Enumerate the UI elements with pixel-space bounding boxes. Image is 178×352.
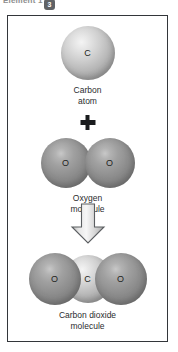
carbon-atom-caption-line1: Carbon (8, 85, 167, 96)
carbon-dioxide-caption: Carbon dioxide molecule (8, 310, 167, 331)
figure-frame: C Carbon atom + O O Oxygen molecule (7, 15, 168, 342)
down-arrow-icon (70, 203, 106, 244)
header-label: Element 1 (3, 0, 43, 5)
oxygen-molecule-caption-line1: Oxygen (8, 193, 167, 204)
co2-oxygen-atom-sphere-left: O (29, 253, 81, 305)
oxygen-atom-symbol-left: O (41, 158, 91, 168)
co2-oxygen-atom-symbol-left: O (29, 274, 81, 284)
oxygen-atom-sphere-left: O (41, 138, 91, 188)
carbon-atom-caption-line2: atom (8, 96, 167, 107)
header-badge: 3 (44, 0, 55, 10)
co2-oxygen-atom-symbol-right: O (95, 274, 147, 284)
carbon-atom-symbol: C (61, 48, 115, 58)
carbon-atom-caption: Carbon atom (8, 85, 167, 106)
carbon-dioxide-molecule-group: C O O Carbon dioxide molecule (8, 253, 167, 339)
co2-oxygen-atom-sphere-right: O (95, 253, 147, 305)
header-strip: Element 1 3 (0, 0, 178, 13)
co2-sphere-cluster: C O O (8, 253, 167, 311)
carbon-atom-group: C Carbon atom (8, 26, 167, 112)
carbon-atom-sphere: C (61, 26, 115, 80)
oxygen-atom-sphere-right: O (85, 138, 135, 188)
oxygen-atom-symbol-right: O (85, 158, 135, 168)
carbon-dioxide-caption-line2: molecule (8, 321, 167, 332)
carbon-dioxide-caption-line1: Carbon dioxide (8, 310, 167, 321)
plus-operator-icon (80, 115, 95, 130)
